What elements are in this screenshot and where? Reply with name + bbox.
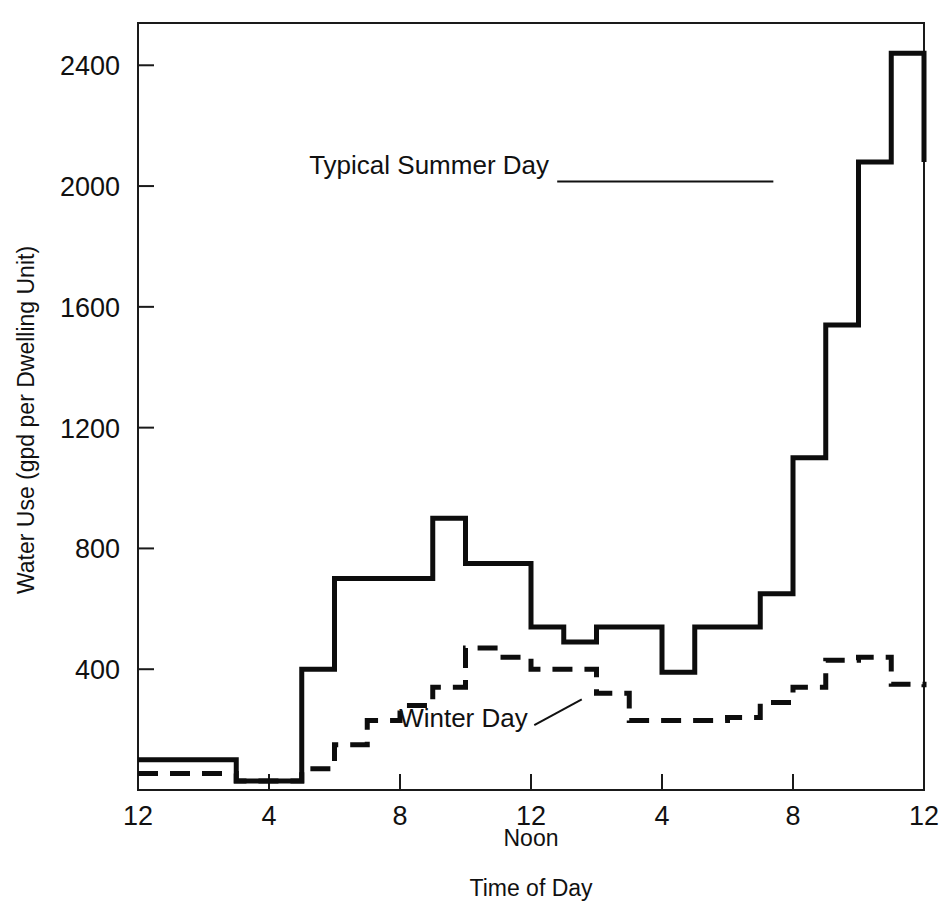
y-tick-label: 400 [75, 655, 120, 685]
annotations-group: Typical Summer DayWinter Day [309, 150, 773, 733]
annotation-label: Typical Summer Day [309, 150, 549, 180]
x-tick-label: 4 [261, 801, 276, 831]
y-axis-ticks: 4008001200160020002400 [60, 51, 154, 685]
series-winter-day [138, 648, 924, 781]
y-tick-label: 2400 [60, 51, 120, 81]
annotation-leader-line [534, 699, 581, 725]
annotation-label: Winter Day [399, 703, 528, 733]
water-use-figure: 4008001200160020002400 1248124812 Typica… [0, 0, 948, 917]
y-tick-label: 2000 [60, 172, 120, 202]
x-tick-label: 8 [785, 801, 800, 831]
step-chart: 4008001200160020002400 1248124812 Typica… [0, 0, 948, 917]
noon-label: Noon [504, 825, 559, 851]
y-tick-label: 1600 [60, 293, 120, 323]
x-tick-label: 8 [392, 801, 407, 831]
plot-frame [138, 23, 924, 790]
x-tick-label: 12 [123, 801, 153, 831]
x-tick-label: 4 [654, 801, 669, 831]
y-axis-title: Water Use (gpd per Dwelling Unit) [13, 246, 39, 594]
y-tick-label: 1200 [60, 414, 120, 444]
x-tick-label: 12 [909, 801, 939, 831]
axis-frame [138, 23, 924, 790]
x-axis-title: Time of Day [469, 875, 593, 901]
y-tick-label: 800 [75, 534, 120, 564]
